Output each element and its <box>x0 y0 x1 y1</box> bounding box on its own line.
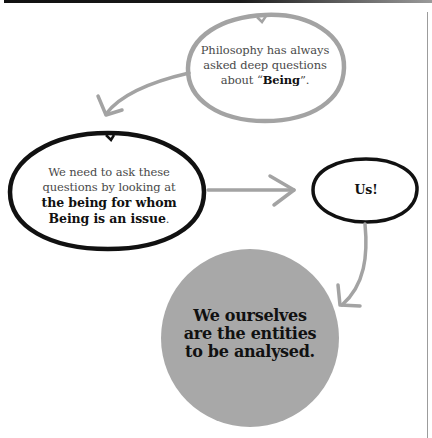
arrow-philosophy-to-ask <box>106 73 189 114</box>
node-us-text: Us! <box>330 182 402 197</box>
node-philosophy-text-post: ”. <box>300 73 309 87</box>
node-philosophy-text: Philosophy has always asked deep questio… <box>200 43 330 88</box>
node-ask-questions-text-bold: the being for whom Being is an issue <box>41 195 176 226</box>
node-ask-questions-text-pre: We need to ask these questions by lookin… <box>43 165 176 194</box>
node-ask-questions-text: We need to ask these questions by lookin… <box>30 165 188 227</box>
node-entities-text: We ourselves are the entities to be anal… <box>182 307 318 361</box>
node-ask-questions-text-post: . <box>166 212 170 226</box>
node-philosophy-text-bold: Being <box>263 73 300 87</box>
arrow-us-to-entities <box>342 224 366 305</box>
